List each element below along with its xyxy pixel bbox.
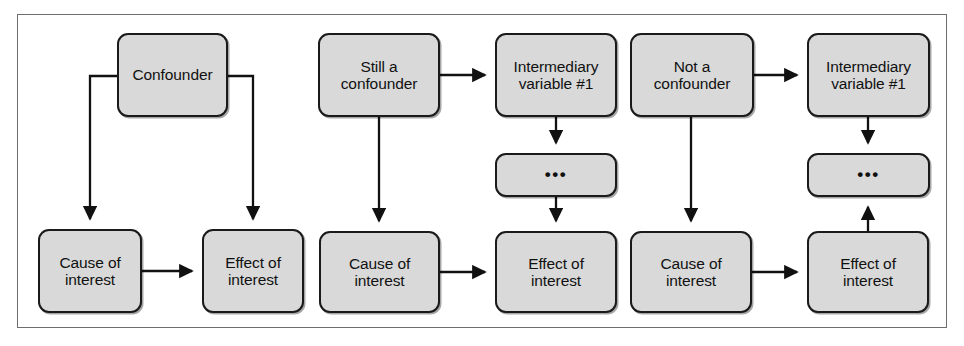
node-cause-of-interest-panel2[interactable]: Cause of interest	[319, 231, 440, 313]
node-label: Still a confounder	[338, 58, 421, 93]
figure-page: Confounder Cause of interest Effect of i…	[0, 0, 964, 346]
node-effect-of-interest-panel2[interactable]: Effect of interest	[495, 231, 617, 313]
node-not-a-confounder[interactable]: Not a confounder	[630, 33, 754, 117]
node-intermediary-variable-panel3[interactable]: Intermediary variable #1	[807, 33, 930, 117]
node-confounder[interactable]: Confounder	[117, 33, 228, 117]
node-label: Cause of interest	[56, 254, 123, 289]
node-label: Confounder	[129, 66, 215, 83]
edge-confounder-to-cause	[90, 76, 117, 219]
node-label: Intermediary variable #1	[823, 58, 914, 93]
node-effect-of-interest-panel3[interactable]: Effect of interest	[807, 231, 929, 313]
node-label: Effect of interest	[525, 255, 587, 290]
node-cause-of-interest-panel1[interactable]: Cause of interest	[38, 229, 142, 313]
node-label: Effect of interest	[222, 254, 284, 289]
node-label: Not a confounder	[651, 58, 734, 93]
edge-confounder-to-effect	[228, 76, 253, 219]
node-label: Cause of interest	[346, 255, 413, 290]
node-cause-of-interest-panel3[interactable]: Cause of interest	[630, 231, 752, 313]
node-ellipsis-panel3[interactable]: •••	[807, 153, 930, 197]
node-effect-of-interest-panel1[interactable]: Effect of interest	[202, 229, 304, 313]
node-label: Intermediary variable #1	[511, 58, 602, 93]
node-label: Cause of interest	[657, 255, 724, 290]
node-label: •••	[542, 170, 570, 180]
node-label: •••	[854, 170, 882, 180]
node-intermediary-variable-panel2[interactable]: Intermediary variable #1	[495, 33, 617, 117]
node-still-a-confounder[interactable]: Still a confounder	[318, 33, 440, 117]
node-label: Effect of interest	[837, 255, 899, 290]
node-ellipsis-panel2[interactable]: •••	[495, 153, 617, 197]
